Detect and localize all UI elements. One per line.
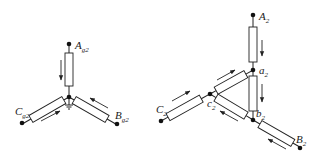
label-C2: C2 <box>156 103 167 118</box>
resistor-a2 <box>249 27 257 62</box>
branch-b <box>67 94 119 128</box>
node-A2 <box>251 13 256 18</box>
resistor-c <box>29 97 66 123</box>
right-diagram: A2 a2 c2 b2 C2 B2 <box>156 10 307 150</box>
resistor-c2 <box>166 95 203 120</box>
node-b2 <box>251 118 256 123</box>
node-a2 <box>251 68 256 73</box>
label-A2: A2 <box>258 10 270 25</box>
branch-a <box>61 44 73 97</box>
circuit-diagrams: Ag2 Cg2 Bg2 <box>0 0 316 161</box>
resistor-bc <box>214 94 248 119</box>
node-c2 <box>208 92 213 97</box>
label-a2: a2 <box>259 64 269 79</box>
node-B2 <box>298 146 303 151</box>
label-a-g2: Ag2 <box>74 39 89 54</box>
node-center <box>67 95 72 100</box>
current-arrow-c2 <box>172 91 190 101</box>
resistor-b2 <box>258 121 295 147</box>
node-a-g2 <box>67 42 72 47</box>
branch-c <box>20 94 71 128</box>
resistor-b <box>72 97 109 123</box>
resistor-ab <box>249 76 257 111</box>
label-c-g2: Cg2 <box>15 105 30 120</box>
label-b2: b2 <box>256 107 266 122</box>
resistor-ca <box>214 71 248 94</box>
node-b-g2 <box>115 122 120 127</box>
resistor-a <box>65 53 73 86</box>
node-c-g2 <box>20 121 25 126</box>
node-C2 <box>159 119 164 124</box>
left-diagram: Ag2 Cg2 Bg2 <box>15 39 129 128</box>
